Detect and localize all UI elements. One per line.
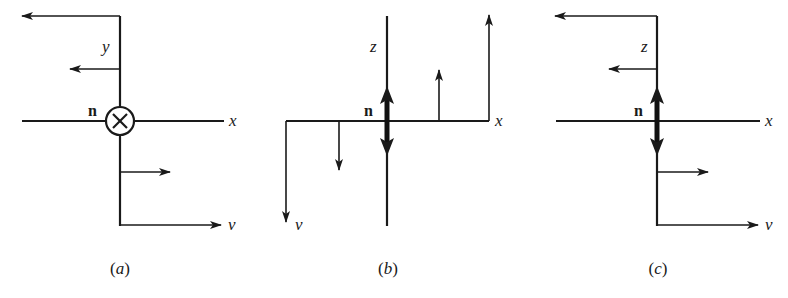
axis-label-horizontal: x [764, 111, 773, 130]
axis-label-vertical: y [100, 37, 110, 56]
displacement-label: v [228, 215, 236, 234]
panel-caption: (b) [378, 259, 398, 278]
axis-label-horizontal: x [228, 111, 237, 130]
circled-cross-icon [106, 107, 134, 135]
normal-label: n [364, 102, 373, 119]
displacement-label: v [295, 215, 303, 234]
panel-c: z x v n (c) [555, 16, 773, 278]
axis-label-vertical: z [369, 37, 377, 56]
axis-label-horizontal: x [494, 111, 503, 130]
displacement-label: v [765, 215, 773, 234]
dislocation-diagram: y x v n (a) z x v n (b) [0, 0, 788, 298]
normal-label: n [634, 102, 643, 119]
axis-label-vertical: z [640, 37, 648, 56]
panel-caption: (c) [649, 259, 668, 278]
panel-a: y x v n (a) [22, 16, 237, 278]
normal-label: n [88, 102, 97, 119]
panel-b: z x v n (b) [286, 15, 503, 278]
panel-caption: (a) [110, 259, 130, 278]
